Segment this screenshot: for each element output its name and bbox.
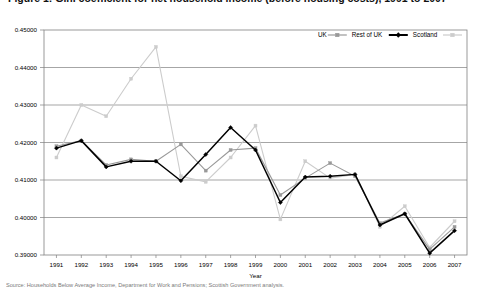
x-axis-tick-label: 1993 — [99, 261, 113, 268]
x-axis-tick-label: 1994 — [124, 261, 138, 268]
x-axis-tick-label: 1995 — [149, 261, 163, 268]
chart-footnote: Source: Households Below Average Income,… — [6, 282, 476, 290]
y-axis-tick-label: 0.42000 — [15, 139, 38, 146]
x-tick-marks — [56, 255, 454, 258]
data-series-layer — [54, 45, 456, 255]
x-axis-tick-label: 1997 — [199, 261, 213, 268]
x-axis-tick-label: 2000 — [273, 261, 287, 268]
x-axis-title: Year — [249, 272, 262, 279]
chart-legend: UKRest of UKScotland — [318, 31, 462, 38]
legend-label-uk: UK — [318, 31, 328, 38]
y-axis-tick-label: 0.39000 — [15, 251, 38, 258]
x-axis-tick-label: 2005 — [398, 261, 412, 268]
y-axis-tick-label: 0.40000 — [15, 214, 38, 221]
x-axis-tick-label: 2002 — [323, 261, 337, 268]
legend-marker-rest-of-uk — [389, 33, 408, 38]
legend-label-rest-of-uk: Rest of UK — [352, 31, 383, 38]
y-axis-tick-label: 0.44000 — [15, 64, 38, 71]
x-axis-tick-label: 1999 — [249, 261, 263, 268]
y-tick-marks — [40, 30, 44, 255]
series-uk — [55, 139, 456, 251]
chart-container: 0.450000.440000.430000.420000.410000.400… — [0, 0, 477, 290]
x-axis-tick-label: 1991 — [50, 261, 64, 268]
x-axis-tick-label: 2006 — [423, 261, 437, 268]
y-axis-tick-labels: 0.450000.440000.430000.420000.410000.400… — [15, 26, 38, 258]
y-axis-tick-label: 0.43000 — [15, 101, 38, 108]
legend-label-scotland: Scotland — [413, 31, 438, 38]
x-axis-tick-label: 2007 — [448, 261, 462, 268]
x-axis-tick-label: 1996 — [174, 261, 188, 268]
x-axis-tick-label: 2004 — [373, 261, 387, 268]
series-rest-of-uk — [54, 126, 456, 256]
x-axis-tick-labels: 1991199219931994199519961997199819992000… — [50, 261, 462, 268]
y-axis-tick-label: 0.41000 — [15, 176, 38, 183]
x-axis-tick-label: 2003 — [348, 261, 362, 268]
x-axis-tick-label: 1998 — [224, 261, 238, 268]
x-axis-tick-label: 2001 — [298, 261, 312, 268]
legend-marker-scotland — [443, 33, 462, 37]
legend-marker-uk — [328, 33, 347, 37]
y-axis-tick-label: 0.45000 — [15, 26, 38, 33]
line-chart: 0.450000.440000.430000.420000.410000.400… — [0, 0, 477, 290]
gridlines — [44, 68, 467, 218]
x-axis-tick-label: 1992 — [74, 261, 88, 268]
